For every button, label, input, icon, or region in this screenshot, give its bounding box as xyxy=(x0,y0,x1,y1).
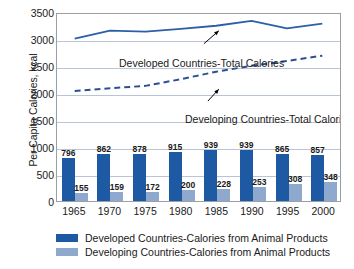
legend-item-developed: Developed Countries-Calories from Animal… xyxy=(56,231,354,245)
chart-legend: Developed Countries-Calories from Animal… xyxy=(56,231,354,259)
y-tick-label: 3000 xyxy=(14,35,54,46)
bar-developed xyxy=(97,154,110,201)
x-tick-label: 1965 xyxy=(54,206,94,217)
bar-value-label-developing: 200 xyxy=(177,181,200,190)
bar-value-label-developing: 172 xyxy=(141,183,164,192)
legend-label-developed: Developed Countries-Calories from Animal… xyxy=(85,232,328,244)
line-developed-total xyxy=(75,21,323,39)
x-tick-label: 2000 xyxy=(303,206,343,217)
x-tick-label: 1990 xyxy=(232,206,272,217)
gridline xyxy=(57,95,340,96)
bar-value-label-developed: 939 xyxy=(235,141,258,150)
bar-value-label-developing: 308 xyxy=(284,175,307,184)
bar-value-label-developed: 796 xyxy=(57,149,80,158)
bar-developing xyxy=(253,187,266,201)
bar-developed xyxy=(169,152,182,201)
bar-value-label-developed: 878 xyxy=(128,145,151,154)
bar-value-label-developed: 862 xyxy=(92,145,115,154)
legend-swatch-developing xyxy=(56,248,78,256)
bar-value-label-developing: 159 xyxy=(105,183,128,192)
y-tick-label: 1000 xyxy=(14,143,54,154)
bar-developed xyxy=(204,150,217,201)
bar-value-label-developing: 228 xyxy=(212,180,235,189)
bar-developing xyxy=(75,193,88,201)
legend-item-developing: Developing Countries-Calories from Anima… xyxy=(56,245,354,259)
bar-value-label-developed: 939 xyxy=(199,141,222,150)
bar-developing xyxy=(110,192,123,201)
bar-value-label-developed: 857 xyxy=(306,146,329,155)
bar-value-label-developing: 155 xyxy=(70,184,93,193)
bar-developed xyxy=(133,154,146,201)
y-tick-label: 3500 xyxy=(14,8,54,19)
legend-label-developing: Developing Countries-Calories from Anima… xyxy=(85,246,330,258)
y-axis-tick-labels: 0500100015002000250030003500 xyxy=(8,0,54,269)
y-tick-label: 1500 xyxy=(14,116,54,127)
bar-developed xyxy=(62,158,75,201)
x-tick-label: 1975 xyxy=(125,206,165,217)
y-tick-label: 2500 xyxy=(14,62,54,73)
bar-value-label-developed: 865 xyxy=(271,145,294,154)
plot-area: 7961558621598781729152009392289392538653… xyxy=(56,13,341,202)
bar-developing xyxy=(289,184,302,201)
annotation-developed-total: Developed Countries-Total Calories xyxy=(119,58,284,69)
bar-developed xyxy=(240,150,253,201)
chart-figure: Per Capita Calories, kcal 05001000150020… xyxy=(0,0,354,269)
bar-value-label-developing: 253 xyxy=(248,178,271,187)
bar-value-label-developing: 348 xyxy=(319,173,341,182)
x-tick-label: 1985 xyxy=(196,206,236,217)
y-tick-label: 0 xyxy=(14,197,54,208)
bar-developing xyxy=(146,192,159,201)
x-tick-label: 1980 xyxy=(161,206,201,217)
bar-developing xyxy=(217,189,230,201)
bar-developing xyxy=(182,190,195,201)
bar-developing xyxy=(324,182,337,201)
y-tick-label: 500 xyxy=(14,170,54,181)
x-tick-label: 1995 xyxy=(268,206,308,217)
annotation-developing-total: Developing Countries-Total Calories xyxy=(185,114,341,125)
y-tick-label: 2000 xyxy=(14,89,54,100)
x-tick-label: 1970 xyxy=(89,206,129,217)
gridline xyxy=(57,41,340,42)
bar-value-label-developed: 915 xyxy=(164,143,187,152)
legend-swatch-developed xyxy=(56,234,78,242)
